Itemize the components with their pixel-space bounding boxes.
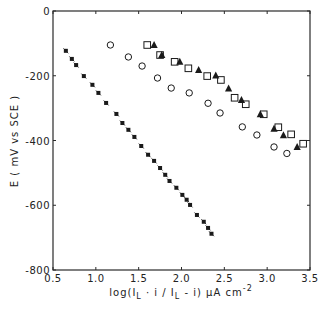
- x-tick-label: 3.0: [258, 273, 275, 284]
- y-axis-ticks: 0-200-400-600-800: [25, 6, 310, 276]
- circle-marker: [107, 42, 113, 48]
- triangle-marker: [280, 131, 287, 138]
- x-tick-label: 2.0: [173, 273, 190, 284]
- triangle-marker: [150, 41, 157, 48]
- circle-marker: [154, 75, 160, 81]
- y-tick-label: -200: [25, 71, 50, 82]
- plot-border: [53, 11, 310, 270]
- y-tick-label: 0: [43, 6, 50, 17]
- plot-frame: [53, 11, 310, 270]
- triangle-marker: [238, 96, 245, 103]
- circle-marker: [254, 132, 260, 138]
- circle-marker: [125, 54, 131, 60]
- x-tick-label: 3.5: [301, 273, 318, 284]
- y-tick-label: -800: [25, 265, 50, 276]
- square-marker: [231, 94, 238, 101]
- x-tick-label: 1.5: [130, 273, 147, 284]
- circle-marker: [205, 100, 211, 106]
- y-tick-label: -600: [25, 200, 50, 211]
- triangle-marker: [195, 66, 202, 73]
- circle-marker: [186, 90, 192, 96]
- chart: 0.51.01.52.02.53.03.5 0-200-400-600-800 …: [0, 0, 325, 310]
- square-marker: [144, 42, 151, 49]
- square-marker: [300, 140, 307, 147]
- x-tick-label: 2.5: [216, 273, 233, 284]
- circle-marker: [271, 144, 277, 150]
- circle-marker: [217, 110, 223, 116]
- y-axis-label: E ( mV vs SCE ): [9, 95, 20, 187]
- data-points: [63, 41, 306, 236]
- square-marker: [204, 73, 211, 80]
- x-axis-label: log(IL · i / IL - i) μA cm-2: [109, 284, 252, 301]
- triangle-marker: [212, 71, 219, 78]
- circle-marker: [284, 150, 290, 156]
- circle-marker: [239, 124, 245, 130]
- square-marker: [288, 131, 295, 138]
- y-tick-label: -400: [25, 136, 50, 147]
- circle-marker: [168, 85, 174, 91]
- x-tick-label: 1.0: [87, 273, 104, 284]
- circle-marker: [139, 63, 145, 69]
- square-marker: [185, 65, 192, 72]
- triangle-marker: [225, 84, 232, 91]
